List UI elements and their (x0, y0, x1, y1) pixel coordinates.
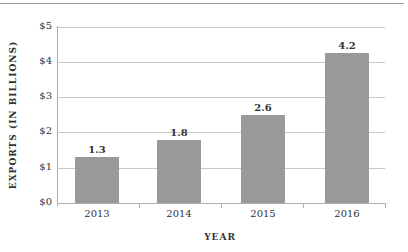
bar-2013 (75, 157, 119, 203)
bar-2015 (241, 115, 285, 203)
x-tick-mark (221, 203, 222, 208)
bar-chart: EXPORTS (IN BILLIONS) $5 $4 $3 $2 $1 $0 … (0, 0, 408, 252)
bar-2016 (325, 53, 369, 203)
y-tick-label: $5 (22, 21, 52, 31)
y-axis-label: EXPORTS (IN BILLIONS) (8, 41, 18, 189)
y-axis-line (57, 26, 58, 206)
x-tick-label: 2015 (233, 208, 293, 219)
y-tick-label: $3 (22, 91, 52, 101)
y-tick-label: $1 (22, 162, 52, 172)
bar-value-label: 2.6 (241, 102, 285, 113)
x-tick-label: 2016 (317, 208, 377, 219)
y-tick-label: $2 (22, 126, 52, 136)
y-tick-label: $4 (22, 56, 52, 66)
x-tick-mark (303, 203, 304, 208)
y-tick-label: $0 (22, 197, 52, 207)
x-tick-label: 2014 (149, 208, 209, 219)
x-tick-mark (139, 203, 140, 208)
x-tick-mark (385, 203, 386, 208)
bar-value-label: 1.8 (157, 127, 201, 138)
x-axis-label: YEAR (190, 232, 250, 242)
gridline-5 (57, 27, 385, 28)
bar-value-label: 1.3 (75, 144, 119, 155)
bar-2014 (157, 140, 201, 203)
x-tick-label: 2013 (67, 208, 127, 219)
bar-value-label: 4.2 (325, 40, 369, 51)
